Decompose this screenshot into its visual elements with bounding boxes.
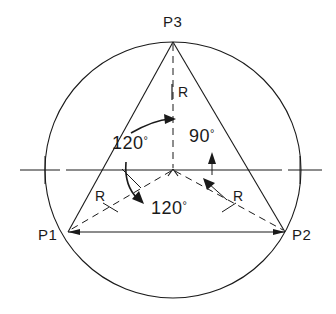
leader-line-r-left	[103, 203, 118, 212]
angle-value-bottom: 120	[151, 198, 183, 218]
angle-value-right: 90	[189, 126, 210, 146]
angle-label-right: 90°	[189, 127, 214, 145]
base-dimension-line	[68, 229, 285, 235]
radius-label-left: R	[95, 189, 106, 203]
degree-symbol-right: °	[210, 127, 214, 139]
angle-arrow-90	[208, 152, 216, 175]
technical-drawing: P3 P1 P2 R R R 120° 90° 120°	[0, 0, 336, 314]
angle-value-upper-left: 120	[112, 133, 144, 153]
radius-label-right: R	[233, 189, 244, 203]
angle-label-bottom: 120°	[151, 199, 187, 217]
degree-symbol-bottom: °	[183, 199, 187, 211]
vertex-label-p3: P3	[163, 14, 182, 29]
leader-line-r-right	[222, 203, 236, 212]
radius-label-top: R	[178, 85, 189, 99]
angle-label-upper-left: 120°	[112, 134, 148, 152]
degree-symbol-upper-left: °	[144, 134, 148, 146]
angle-arrow-lower-right	[203, 178, 227, 200]
vertex-label-p1: P1	[38, 227, 57, 242]
diagram-canvas	[0, 0, 336, 314]
angle-arc-upper-left	[131, 114, 176, 133]
vertex-label-p2: P2	[292, 227, 311, 242]
